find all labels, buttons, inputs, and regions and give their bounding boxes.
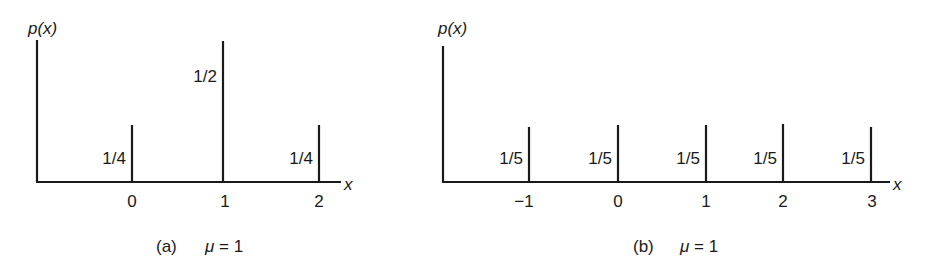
panel-a: p(x) x 1/4 1/2 1/4 0 1 2 (a) μ = 1 (27, 19, 353, 256)
figure: p(x) x 1/4 1/2 1/4 0 1 2 (a) μ = 1 p(x) … (0, 0, 932, 280)
x-axis-label: x (892, 175, 902, 194)
x-tick-label: 1 (701, 192, 710, 211)
caption-tag: (a) (156, 237, 177, 256)
value-label: 1/5 (753, 149, 777, 168)
x-tick-label: 2 (778, 192, 787, 211)
x-tick-label: 3 (867, 192, 876, 211)
caption-mu: μ = 1 (679, 237, 718, 256)
x-tick-label: 2 (314, 192, 323, 211)
x-axis-label: x (343, 175, 353, 194)
y-axis-label: p(x) (437, 19, 467, 38)
y-axis-label: p(x) (27, 19, 57, 38)
value-label: 1/5 (588, 149, 612, 168)
panel-b: p(x) x 1/5 1/5 1/5 1/5 1/5 −1 0 1 2 3 (b… (437, 19, 902, 256)
value-label: 1/5 (841, 149, 865, 168)
value-label: 1/2 (193, 67, 217, 86)
x-tick-label: 0 (127, 192, 136, 211)
value-label: 1/5 (676, 149, 700, 168)
caption-mu: μ = 1 (204, 237, 243, 256)
x-tick-label: 1 (220, 192, 229, 211)
value-label: 1/4 (289, 149, 313, 168)
x-tick-label: −1 (514, 192, 533, 211)
caption-tag: (b) (633, 237, 654, 256)
value-label: 1/4 (102, 149, 126, 168)
value-label: 1/5 (499, 149, 523, 168)
x-tick-label: 0 (613, 192, 622, 211)
